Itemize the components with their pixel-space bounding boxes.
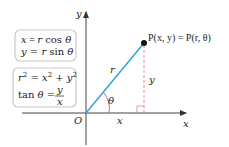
formula-y-equals-r-sin-theta: y = r sin θ: [20, 46, 73, 57]
fraction-numerator: y: [56, 84, 63, 95]
vertical-leg-label: y: [148, 74, 155, 85]
horizontal-leg-label: x: [117, 115, 123, 126]
formula-tan-theta: tan θ =: [18, 89, 55, 100]
origin-label: O: [74, 115, 82, 126]
formula-x-equals-r-cos-theta: x = r cos θ: [21, 34, 71, 45]
point-p: [141, 40, 147, 46]
angle-label: θ: [108, 95, 114, 106]
radius-line: [86, 43, 144, 113]
x-axis-label: x: [183, 118, 189, 129]
y-axis-label: y: [75, 8, 82, 19]
point-label: P(x, y) = P(r, θ): [148, 32, 211, 44]
fraction-denominator: x: [57, 96, 63, 107]
polar-coordinates-diagram: P(x, y) = P(r, θ) y x O r θ x y x = r co…: [0, 0, 229, 147]
right-angle-marker: [137, 106, 144, 113]
formula-box-inverse: r2 = x2 + y2 tan θ = y x: [13, 68, 77, 107]
formula-r-squared: r2 = x2 + y2: [18, 71, 77, 83]
formula-box-conversion: x = r cos θ y = r sin θ: [15, 30, 76, 61]
radius-label: r: [110, 64, 116, 75]
